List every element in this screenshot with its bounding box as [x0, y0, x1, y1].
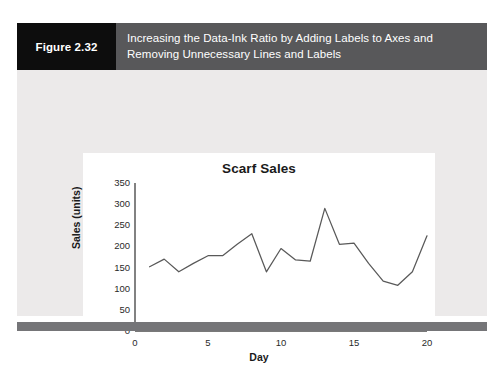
- figure-header: Figure 2.32 Increasing the Data-Ink Rati…: [17, 23, 487, 70]
- y-axis-label: Sales (units): [70, 187, 82, 249]
- x-tick-0: 0: [123, 337, 147, 348]
- y-tick-150: 150: [100, 262, 130, 273]
- y-tick-50: 50: [100, 304, 130, 315]
- plot-area: Sales (units) Day 050100150200250300350 …: [83, 153, 435, 367]
- figure-bottom-bar: [17, 322, 487, 331]
- sales-data-line: [150, 208, 427, 285]
- x-tick-20: 20: [415, 337, 439, 348]
- x-tick-15: 15: [342, 337, 366, 348]
- figure-body-panel: Scarf Sales Sales (units) Day 0501001502…: [17, 70, 487, 316]
- x-tick-10: 10: [269, 337, 293, 348]
- x-tick-5: 5: [196, 337, 220, 348]
- line-chart-svg: [83, 153, 435, 367]
- chart-panel: Scarf Sales Sales (units) Day 0501001502…: [83, 153, 435, 367]
- figure-caption-text: Increasing the Data-Ink Ratio by Adding …: [116, 23, 487, 70]
- y-tick-200: 200: [100, 240, 130, 251]
- x-axis-label: Day: [83, 351, 435, 363]
- y-tick-300: 300: [100, 198, 130, 209]
- y-tick-250: 250: [100, 219, 130, 230]
- y-tick-350: 350: [100, 177, 130, 188]
- page-top-text-fragment: [14, 1, 484, 11]
- y-tick-100: 100: [100, 283, 130, 294]
- figure-number-label: Figure 2.32: [17, 23, 116, 70]
